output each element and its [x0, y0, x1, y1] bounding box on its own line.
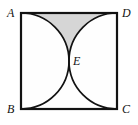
vertex-label-b: B — [7, 103, 14, 115]
vertex-label-d: D — [122, 7, 131, 19]
vertex-label-e: E — [73, 55, 80, 67]
vertex-label-c: C — [122, 103, 130, 115]
geometry-figure: A D B C E — [0, 0, 138, 125]
vertex-label-a: A — [7, 7, 14, 19]
figure-canvas — [0, 0, 138, 125]
